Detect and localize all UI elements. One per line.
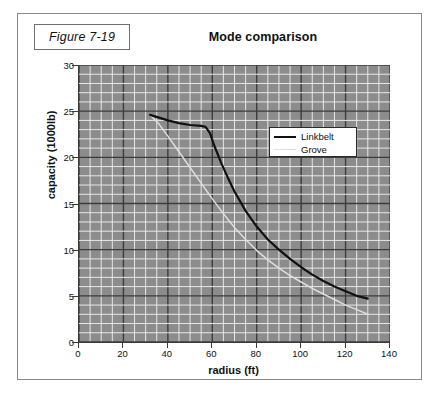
y-tick-label: 5 <box>40 290 74 301</box>
x-tick-mark <box>256 342 257 348</box>
legend-line-icon-linkbelt <box>274 136 296 138</box>
y-tick-mark <box>72 296 78 297</box>
x-tick-label: 40 <box>152 348 182 359</box>
x-tick-mark <box>300 342 301 348</box>
x-tick-mark <box>167 342 168 348</box>
chart-legend: Linkbelt Grove <box>269 127 357 157</box>
y-tick-label: 10 <box>40 244 74 255</box>
y-tick-mark <box>72 65 78 66</box>
x-tick-label: 140 <box>374 348 404 359</box>
y-tick-mark <box>72 250 78 251</box>
plot-canvas <box>79 65 390 342</box>
x-tick-mark <box>122 342 123 348</box>
legend-item-linkbelt: Linkbelt <box>274 130 352 143</box>
x-axis-label: radius (ft) <box>78 364 389 376</box>
y-axis-label: capacity (1000lb) <box>45 80 57 230</box>
x-tick-label: 60 <box>196 348 226 359</box>
x-tick-mark <box>389 342 390 348</box>
y-tick-mark <box>72 204 78 205</box>
figure-frame: Figure 7-19 Mode comparison 051015202530… <box>17 13 422 380</box>
x-tick-label: 20 <box>107 348 137 359</box>
x-tick-mark <box>211 342 212 348</box>
x-tick-label: 100 <box>285 348 315 359</box>
x-tick-label: 80 <box>241 348 271 359</box>
legend-item-grove: Grove <box>274 143 352 156</box>
legend-label-grove: Grove <box>301 144 327 156</box>
y-tick-label: 0 <box>40 337 74 348</box>
y-tick-label: 30 <box>40 60 74 71</box>
x-tick-label: 120 <box>330 348 360 359</box>
x-tick-mark <box>78 342 79 348</box>
y-tick-mark <box>72 111 78 112</box>
legend-line-icon-grove <box>274 149 296 150</box>
plot-wrapper: 051015202530 020406080100120140 capacity… <box>18 14 423 381</box>
x-tick-label: 0 <box>63 348 93 359</box>
x-axis-tick-labels: 020406080100120140 <box>78 348 389 362</box>
legend-label-linkbelt: Linkbelt <box>301 131 334 143</box>
plot-area <box>78 65 390 343</box>
x-tick-mark <box>345 342 346 348</box>
y-tick-mark <box>72 157 78 158</box>
